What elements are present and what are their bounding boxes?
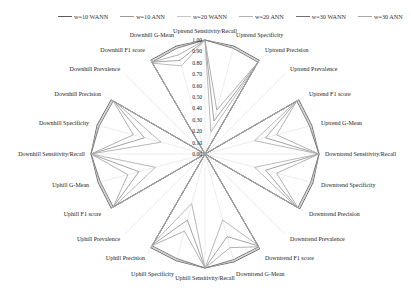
axis-label: Uptrend F1 score xyxy=(309,91,351,97)
axis-label: Downtrend F1 score xyxy=(265,255,314,261)
radial-tick-label: 0.20 xyxy=(192,128,202,134)
axis-label: Downtrend G-Mean xyxy=(236,271,285,277)
radar-spoke xyxy=(205,154,286,235)
radial-tick-label: 0.60 xyxy=(192,83,202,89)
axis-label: Downhill Precision xyxy=(55,91,102,97)
axis-label: Uphill F1 score xyxy=(64,211,102,217)
axis-label: Uphill Sensitivity/Recall xyxy=(175,275,235,281)
axis-label: Downhill G-Mean xyxy=(130,32,174,38)
radar-spoke xyxy=(124,154,205,235)
radial-tick-label: 0.90 xyxy=(192,48,202,54)
radial-tick-label: 0.00 xyxy=(192,151,202,157)
radial-tick-label: 0.30 xyxy=(192,117,202,123)
axis-label: Downtrend Specificity xyxy=(321,182,376,188)
axis-label: Downhill Prevalence xyxy=(70,66,121,72)
axis-label: Downtrend Sensitivity/Recall xyxy=(325,151,396,157)
axis-label: Uphill Precision xyxy=(106,255,145,261)
radar-chart: 0.000.100.200.300.400.500.600.700.800.90… xyxy=(0,0,411,295)
axis-label: Uptrend Specificity xyxy=(236,32,283,38)
axis-label: Uphill Specificity xyxy=(131,271,174,277)
axis-label: Downhill F1 score xyxy=(100,47,145,53)
axis-label: Uphill Prevalence xyxy=(77,236,120,242)
radar-spoke xyxy=(95,124,205,154)
radial-tick-label: 0.80 xyxy=(192,60,202,66)
radial-tick-label: 0.40 xyxy=(192,105,202,111)
axis-label: Uptrend Precision xyxy=(265,47,309,53)
axis-label: Downtrend Precision xyxy=(309,211,360,217)
axis-label: Downtrend Prevalence xyxy=(290,236,345,242)
axis-label: Uptrend Sensitivity/Recall xyxy=(173,28,237,34)
radar-spoke xyxy=(205,73,286,154)
radial-tick-label: 0.50 xyxy=(192,94,202,100)
axis-label: Uptrend G-Mean xyxy=(321,120,362,126)
radial-tick-label: 0.70 xyxy=(192,71,202,77)
radial-tick-label: 0.10 xyxy=(192,140,202,146)
axis-label: Downhill Sensitivity/Recall xyxy=(18,151,85,157)
axis-label: Uptrend Prevalence xyxy=(290,66,338,72)
axis-label: Downhill Specificity xyxy=(39,120,89,126)
radial-tick-label: 1.00 xyxy=(192,37,202,43)
axis-label: Uphill G-Mean xyxy=(52,182,89,188)
